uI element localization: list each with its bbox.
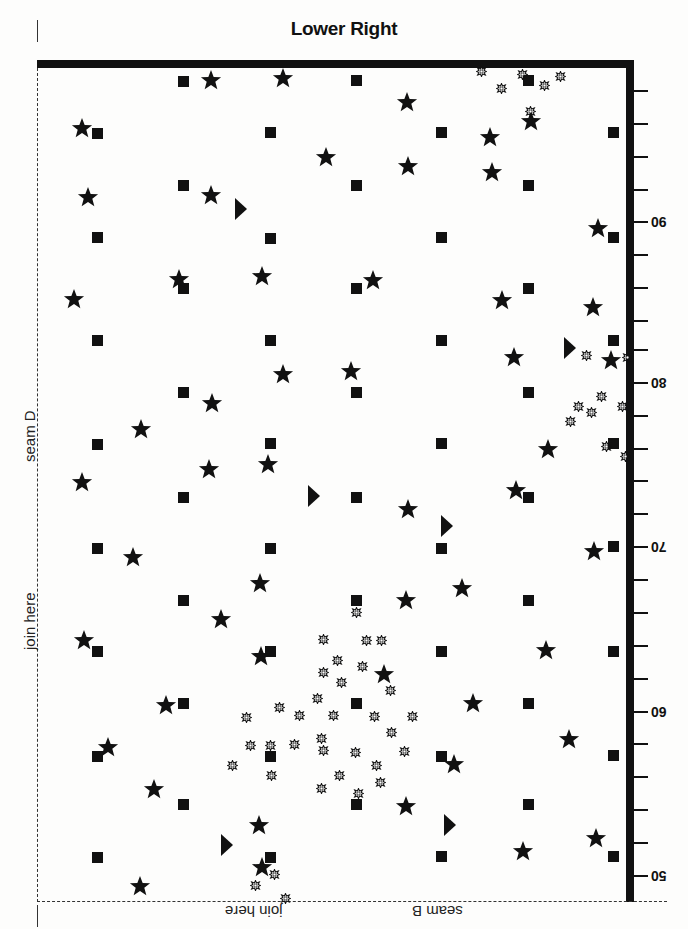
seam-d-label: seam D (21, 410, 38, 462)
sun-glyph-icon (274, 699, 285, 710)
square-marker-icon (178, 799, 189, 810)
square-marker-icon (92, 852, 103, 863)
square-marker-icon (523, 387, 534, 398)
star-icon (362, 269, 384, 291)
square-marker-icon (523, 799, 534, 810)
axis-tick (634, 415, 648, 417)
sun-glyph-icon (517, 66, 528, 77)
square-marker-icon (265, 233, 276, 244)
square-marker-icon (351, 698, 362, 709)
axis-tick-label: 50 (651, 869, 667, 883)
star-icon (537, 438, 559, 460)
star-icon (315, 146, 337, 168)
square-marker-icon (92, 232, 103, 243)
star-icon (397, 498, 419, 520)
star-icon (462, 692, 484, 714)
square-marker-icon (351, 799, 362, 810)
sun-glyph-icon (361, 632, 372, 643)
star-icon (249, 572, 271, 594)
sun-glyph-icon (357, 658, 368, 669)
star-icon (396, 91, 418, 113)
square-marker-icon (608, 127, 619, 138)
sun-glyph-icon (289, 736, 300, 747)
star-icon (443, 753, 465, 775)
axis-tick (634, 320, 648, 322)
square-marker-icon (178, 387, 189, 398)
sun-glyph-icon (245, 737, 256, 748)
square-marker-icon (178, 76, 189, 87)
star-icon (395, 795, 417, 817)
star-icon (340, 360, 362, 382)
frame-right-border (626, 60, 634, 902)
frame-top-border (37, 60, 634, 68)
sun-glyph-icon (617, 398, 628, 409)
sun-glyph-icon (385, 682, 396, 693)
star-icon (73, 629, 95, 651)
triangle-marker-icon (444, 814, 456, 836)
square-marker-icon (436, 127, 447, 138)
sun-glyph-icon (316, 730, 327, 741)
square-marker-icon (436, 646, 447, 657)
square-marker-icon (436, 335, 447, 346)
sun-glyph-icon (294, 707, 305, 718)
square-marker-icon (265, 543, 276, 554)
star-icon (122, 546, 144, 568)
star-icon (63, 288, 85, 310)
sun-glyph-icon (334, 767, 345, 778)
axis-tick (634, 156, 648, 158)
join-here-bottom-label: join here (225, 903, 283, 920)
star-icon (535, 639, 557, 661)
square-marker-icon (265, 438, 276, 449)
triangle-marker-icon (441, 515, 453, 537)
star-icon (503, 346, 525, 368)
axis-tick (634, 579, 648, 581)
star-icon (200, 69, 222, 91)
sun-glyph-icon (601, 438, 612, 449)
square-marker-icon (265, 127, 276, 138)
axis-tick-label: 70 (651, 540, 667, 554)
star-icon (198, 458, 220, 480)
square-marker-icon (436, 438, 447, 449)
square-marker-icon (265, 751, 276, 762)
star-icon (512, 840, 534, 862)
sun-glyph-icon (539, 77, 550, 88)
star-icon (585, 827, 607, 849)
star-icon (71, 117, 93, 139)
star-icon (397, 155, 419, 177)
sun-glyph-icon (250, 877, 261, 888)
star-icon (200, 184, 222, 206)
sun-glyph-icon (316, 780, 327, 791)
star-icon (130, 418, 152, 440)
square-marker-icon (178, 698, 189, 709)
star-icon (97, 736, 119, 758)
sun-glyph-icon (312, 690, 323, 701)
star-icon (155, 694, 177, 716)
star-icon (143, 778, 165, 800)
axis-tick (634, 382, 648, 384)
star-icon (479, 126, 501, 148)
sun-glyph-icon (350, 744, 361, 755)
sun-glyph-icon (565, 413, 576, 424)
seam-d-dashed-line (37, 68, 38, 902)
sun-glyph-icon (318, 631, 329, 642)
axis-tick (634, 546, 648, 548)
star-icon (491, 289, 513, 311)
sun-glyph-icon (371, 757, 382, 768)
join-here-left-label: join here (21, 592, 38, 650)
star-icon (505, 479, 527, 501)
square-marker-icon (178, 492, 189, 503)
axis-tick-label: 80 (651, 376, 667, 390)
sun-glyph-icon (332, 652, 343, 663)
square-marker-icon (351, 387, 362, 398)
sun-glyph-icon (586, 404, 597, 415)
star-icon (251, 265, 273, 287)
star-icon (395, 589, 417, 611)
square-marker-icon (608, 646, 619, 657)
square-marker-icon (608, 232, 619, 243)
square-marker-icon (351, 492, 362, 503)
sun-glyph-icon (269, 866, 280, 877)
star-icon (582, 296, 604, 318)
square-marker-icon (523, 180, 534, 191)
sun-glyph-icon (622, 349, 633, 360)
square-marker-icon (608, 750, 619, 761)
